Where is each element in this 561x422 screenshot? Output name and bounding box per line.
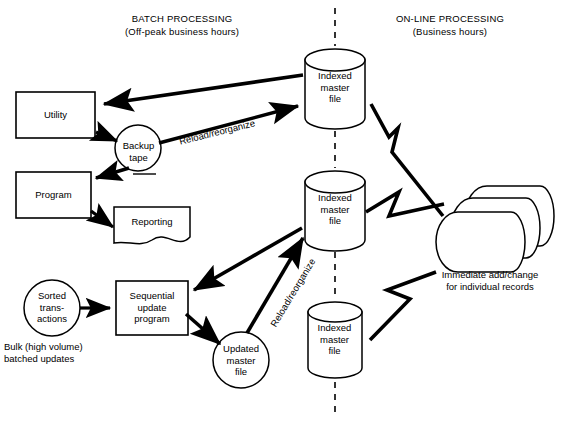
diagram-canvas: BATCH PROCESSING (Off-peak business hour… [0,0,561,422]
arrow-sequential-update-to-updated-master [186,314,220,344]
label-indexed-master-file-middle: Indexed master file [305,192,365,227]
label-program: Program [16,189,91,201]
label-reporting: Reporting [116,216,188,228]
zigzag-indexed-top-to-terminals [371,104,443,216]
label-indexed-master-file-bottom: Indexed master file [307,322,362,357]
label-utility: Utility [16,109,95,121]
label-sequential-update-program: Sequential update program [116,290,188,325]
arrow-backup-tape-to-program [96,168,129,178]
caption-immediate-add-change: Immediate add/change for individual reco… [420,269,560,292]
label-sorted-transactions: Sorted trans- actions [22,290,82,325]
arrow-program-to-reporting [91,211,113,227]
arrow-indexed-middle-to-sequential-update [194,228,302,290]
label-indexed-master-file-top: Indexed master file [305,70,365,105]
label-backup-tape: Backup tape [110,140,167,163]
caption-bulk-batched-updates: Bulk (high volume) batched updates [4,341,144,364]
label-updated-master-file: Updated master file [211,343,271,378]
arrow-indexed-top-to-utility [104,75,303,104]
node-terminals-stack[interactable] [436,186,554,272]
